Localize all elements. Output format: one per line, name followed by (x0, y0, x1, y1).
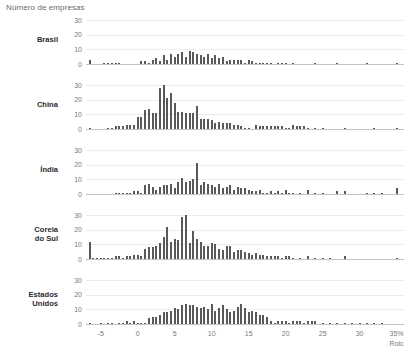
bar (218, 308, 220, 324)
bar (126, 125, 128, 129)
bar (181, 52, 183, 64)
bar (174, 188, 176, 194)
bar (281, 193, 283, 194)
y-tick-label: 0 (62, 61, 82, 68)
bar (237, 307, 239, 324)
y-tick-label: 20 (62, 31, 82, 38)
bar-series (86, 276, 404, 324)
bar (196, 54, 198, 64)
x-tick-label: 15 (245, 330, 253, 337)
bar (122, 258, 124, 259)
bar (285, 128, 287, 129)
y-tick-label: 10 (62, 176, 82, 183)
bar (292, 321, 294, 324)
bar (189, 113, 191, 129)
bar (133, 321, 135, 324)
x-tick-label: 0 (136, 330, 140, 337)
bar (211, 58, 213, 64)
bar (299, 321, 301, 324)
bar (259, 190, 261, 194)
plot-area (86, 81, 404, 129)
bar (200, 119, 202, 129)
bar (192, 113, 194, 129)
bar (89, 242, 91, 259)
bar (270, 256, 272, 259)
bar (373, 193, 375, 194)
bar (248, 128, 250, 129)
bar (307, 321, 309, 324)
bar (89, 60, 91, 64)
bar (181, 217, 183, 259)
bar (314, 321, 316, 324)
bar (248, 312, 250, 324)
bar (259, 63, 261, 64)
bar (107, 323, 109, 324)
y-tick-label: 30 (62, 82, 82, 89)
bar (296, 126, 298, 129)
y-tick-label: 30 (62, 277, 82, 284)
bar (251, 311, 253, 324)
bar (373, 128, 375, 129)
bar (359, 323, 361, 324)
bar (226, 309, 228, 324)
panel-label: China (0, 100, 58, 109)
bar (277, 256, 279, 259)
panel-índia: Índia0102030 (0, 146, 411, 194)
y-tick-label: 30 (62, 17, 82, 24)
bar (200, 308, 202, 324)
bar (266, 126, 268, 129)
bar (214, 123, 216, 129)
bar (111, 128, 113, 129)
bar (292, 258, 294, 259)
bar (133, 255, 135, 259)
bar (163, 55, 165, 64)
bar (248, 60, 250, 64)
bar (170, 93, 172, 129)
bar (118, 193, 120, 194)
bar (126, 256, 128, 259)
bar (207, 184, 209, 194)
bar (281, 63, 283, 64)
bar (285, 63, 287, 64)
bar (270, 63, 272, 64)
bar (266, 193, 268, 194)
bar (189, 181, 191, 194)
bar (292, 125, 294, 129)
bar (207, 309, 209, 324)
bar (155, 246, 157, 259)
bar (174, 103, 176, 129)
bar-series (86, 211, 404, 259)
bar (255, 191, 257, 194)
bar (189, 51, 191, 64)
bar (218, 122, 220, 129)
bar (274, 323, 276, 324)
chart-y-axis-title: Número de empresas (6, 3, 85, 12)
plot-area (86, 146, 404, 194)
bar (229, 246, 231, 259)
bar (174, 308, 176, 324)
x-tick-label: 25 (319, 330, 327, 337)
bar (311, 321, 313, 324)
bar (181, 305, 183, 324)
bar (244, 63, 246, 64)
panel-label: Estados Unidos (0, 290, 58, 308)
bar (222, 250, 224, 259)
bar (174, 239, 176, 259)
bar (122, 193, 124, 194)
bar (218, 249, 220, 259)
bar (203, 119, 205, 129)
bar (237, 250, 239, 259)
bar (89, 128, 91, 129)
panel-brasil: Brasil0102030 (0, 16, 411, 64)
bar (200, 55, 202, 64)
y-tick-label: 30 (62, 212, 82, 219)
y-tick-label: 0 (62, 321, 82, 328)
y-tick-label: 20 (62, 96, 82, 103)
bar (166, 227, 168, 259)
axis-baseline (86, 259, 404, 260)
bar (185, 182, 187, 194)
bar (229, 60, 231, 64)
bar (296, 321, 298, 324)
bar-series (86, 81, 404, 129)
bar (115, 126, 117, 129)
